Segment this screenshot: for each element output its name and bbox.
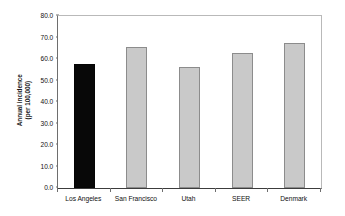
y-axis-title-line-1: Annual incidence — [16, 74, 24, 126]
x-axis-label: San Francisco — [115, 195, 157, 202]
y-axis-ticks: 80.070.060.050.040.030.020.010.00.0 — [30, 15, 56, 187]
y-tick-label: 60.0 — [41, 55, 53, 62]
bar — [74, 64, 95, 188]
x-axis-label: Los Angeles — [65, 195, 101, 202]
y-tick-label: 30.0 — [41, 119, 53, 126]
x-axis-label: SEER — [232, 195, 250, 202]
x-tick-mark — [57, 188, 58, 192]
bar — [232, 53, 253, 188]
x-tick-mark — [215, 188, 216, 192]
y-tick-label: 0.0 — [44, 184, 53, 191]
y-tick-label: 70.0 — [41, 33, 53, 40]
x-tick-mark — [267, 188, 268, 192]
y-tick-label: 40.0 — [41, 98, 53, 105]
y-tick-label: 10.0 — [41, 162, 53, 169]
x-axis: Los AngelesSan FranciscoUtahSEERDenmark — [57, 188, 322, 216]
x-tick-mark — [320, 188, 321, 192]
x-tick-mark — [162, 188, 163, 192]
y-tick-label: 80.0 — [41, 12, 53, 19]
x-tick-mark — [110, 188, 111, 192]
x-axis-label: Denmark — [280, 195, 307, 202]
bar — [284, 43, 305, 188]
bar — [179, 67, 200, 188]
bar — [126, 47, 147, 188]
bars-layer — [58, 16, 321, 188]
x-axis-label: Utah — [182, 195, 196, 202]
y-tick-label: 20.0 — [41, 141, 53, 148]
plot-area — [57, 15, 322, 189]
bar-chart: Annual incidence (per 100,000) 80.070.06… — [0, 0, 345, 216]
y-tick-label: 50.0 — [41, 76, 53, 83]
